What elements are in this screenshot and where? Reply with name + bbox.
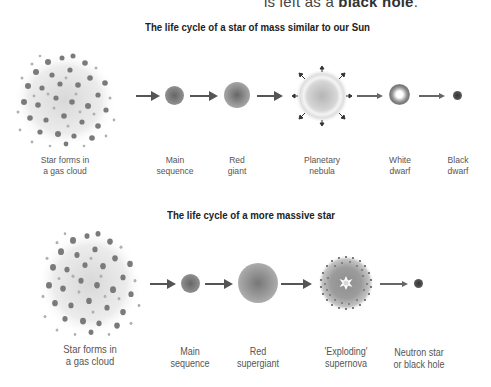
main-sequence-star-icon <box>165 86 184 105</box>
arrow-icon <box>357 95 381 97</box>
label-line-2: supergiant <box>231 358 285 370</box>
label-line-1: Neutron star <box>391 347 447 359</box>
gas-cloud-icon <box>35 227 145 339</box>
label-line-2: or black hole <box>391 359 447 371</box>
gas-cloud-icon <box>10 50 120 150</box>
label-line-1: Star forms in <box>43 343 137 355</box>
black-dwarf-icon <box>453 91 462 100</box>
arrow-icon <box>150 283 174 285</box>
stage-label-red-giant: Red giant <box>219 154 255 176</box>
label-line-1: Star forms in <box>20 154 110 165</box>
stage-label-red-supergiant: Red supergiant <box>231 346 285 370</box>
stage-label-main-sequence: Main sequence <box>166 346 215 370</box>
arrow-icon <box>419 95 443 97</box>
label-line-2: giant <box>219 165 255 176</box>
header-suffix: . <box>414 0 418 10</box>
label-line-2: dwarf <box>384 165 416 176</box>
stage-label-main-sequence: Main sequence <box>153 154 198 176</box>
stage-label-gas-cloud: Star forms in a gas cloud <box>20 154 110 176</box>
label-line-2: a gas cloud <box>43 355 137 367</box>
label-line-2: sequence <box>153 165 198 176</box>
stage-label-planetary-nebula: Planetary nebula <box>300 154 345 176</box>
neutron-star-icon <box>414 279 423 288</box>
label-line-1: Red <box>219 154 255 165</box>
arrow-icon <box>136 95 158 97</box>
label-line-1: Main <box>153 154 198 165</box>
label-line-2: dwarf <box>442 165 474 176</box>
stage-label-white-dwarf: White dwarf <box>384 154 416 176</box>
section-2-title: The life cycle of a more massive star <box>167 209 335 221</box>
arrow-icon <box>380 283 406 285</box>
white-dwarf-icon <box>389 84 410 105</box>
label-line-1: Red <box>231 346 285 358</box>
arrow-icon <box>205 283 231 285</box>
label-line-1: Planetary <box>300 154 345 165</box>
label-line-1: Black <box>442 154 474 165</box>
label-line-1: Main <box>166 346 215 358</box>
label-line-2: sequence <box>166 358 215 370</box>
section-1-title: The life cycle of a star of mass similar… <box>145 21 370 33</box>
stage-label-supernova: 'Exploding' supernova <box>319 346 373 370</box>
planetary-nebula-icon <box>292 66 352 126</box>
arrow-icon <box>190 95 216 97</box>
label-line-2: nebula <box>300 165 345 176</box>
label-line-1: 'Exploding' <box>319 346 373 358</box>
stage-label-gas-cloud: Star forms in a gas cloud <box>43 343 137 367</box>
red-supergiant-icon <box>238 263 278 303</box>
stage-label-neutron-star: Neutron star or black hole <box>391 347 447 371</box>
label-line-2: supernova <box>319 358 373 370</box>
stage-label-black-dwarf: Black dwarf <box>442 154 474 176</box>
arrow-icon <box>281 283 310 285</box>
arrow-icon <box>257 95 281 97</box>
header-prefix: is left as a <box>264 0 338 10</box>
red-giant-icon <box>224 82 250 108</box>
header-fragment: is left as a black hole. <box>264 0 418 10</box>
label-line-2: a gas cloud <box>20 165 110 176</box>
main-sequence-star-icon <box>181 274 200 293</box>
label-line-1: White <box>384 154 416 165</box>
supernova-icon <box>317 254 375 312</box>
header-emphasis: black hole <box>338 0 413 10</box>
